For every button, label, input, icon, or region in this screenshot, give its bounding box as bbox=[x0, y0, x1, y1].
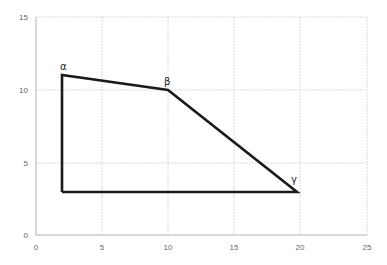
label-gamma: γ bbox=[291, 174, 297, 185]
axes bbox=[36, 17, 367, 235]
x-tick-10: 10 bbox=[164, 243, 173, 252]
x-tick-15: 15 bbox=[230, 243, 239, 252]
chart: 0 5 10 15 0 5 10 15 20 25 α β γ bbox=[0, 0, 387, 265]
x-tick-5: 5 bbox=[100, 243, 105, 252]
label-alpha: α bbox=[60, 61, 67, 72]
y-tick-labels: 0 5 10 15 bbox=[19, 13, 28, 240]
gridlines bbox=[36, 17, 367, 235]
x-tick-25: 25 bbox=[363, 243, 372, 252]
y-tick-10: 10 bbox=[19, 86, 28, 95]
y-tick-0: 0 bbox=[24, 231, 29, 240]
x-tick-20: 20 bbox=[296, 243, 305, 252]
y-tick-15: 15 bbox=[19, 13, 28, 22]
x-tick-labels: 0 5 10 15 20 25 bbox=[34, 243, 372, 252]
y-tick-5: 5 bbox=[24, 159, 29, 168]
x-tick-0: 0 bbox=[34, 243, 39, 252]
label-beta: β bbox=[164, 76, 170, 87]
polygon-series bbox=[62, 75, 297, 192]
